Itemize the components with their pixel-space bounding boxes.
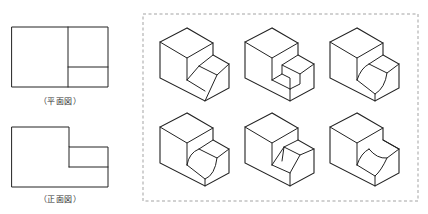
front-view [12, 127, 108, 187]
block-outline [245, 28, 314, 101]
isometric-choice-6[interactable] [330, 113, 399, 186]
plan-view [12, 27, 108, 87]
isometric-choice-2[interactable] [245, 28, 314, 101]
plan-view-caption: （平面図） [39, 95, 82, 106]
front-outline [12, 127, 108, 187]
block-outline [245, 113, 314, 186]
choices-group [160, 28, 399, 186]
isometric-choice-3[interactable] [330, 28, 399, 101]
front-view-caption: （正面図） [39, 193, 82, 204]
isometric-choice-1[interactable] [160, 28, 229, 101]
block-outline [160, 113, 229, 186]
isometric-choice-5[interactable] [245, 113, 314, 186]
isometric-choice-4[interactable] [160, 113, 229, 186]
block-outline [160, 28, 229, 101]
block-outline [330, 113, 399, 186]
diagram-canvas [0, 0, 428, 214]
plan-outline [12, 27, 108, 87]
block-outline [330, 28, 399, 101]
